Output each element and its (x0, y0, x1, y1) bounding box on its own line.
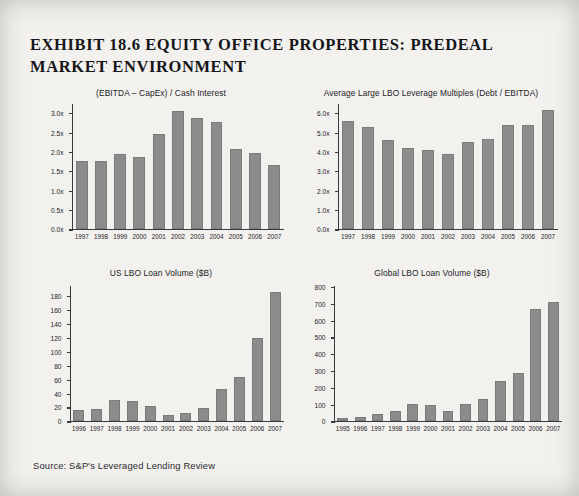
bar (163, 415, 174, 421)
y-axis-tick: 0 (331, 421, 335, 422)
y-axis-tick-label: 0 (58, 418, 62, 425)
bar (460, 404, 471, 420)
x-axis-label: 2002 (168, 233, 187, 240)
bar-slot (188, 104, 207, 229)
page-title: EXHIBIT 18.6 EQUITY OFFICE PROPERTIES: P… (30, 34, 540, 78)
x-axis-label: 1997 (72, 233, 91, 240)
y-axis-tick-label: 800 (314, 284, 325, 291)
bar-slot (422, 286, 440, 421)
x-axis-label: 1998 (91, 233, 110, 240)
x-axis-label: 2007 (544, 425, 562, 432)
x-axis-label: 2002 (438, 233, 458, 240)
x-axis-label: 2007 (266, 425, 284, 432)
x-axis-label: 2007 (265, 233, 284, 240)
bar-slot (177, 286, 195, 421)
x-axis-label: 2006 (527, 425, 545, 432)
bar-slot (398, 104, 418, 229)
y-axis-tick-label: 20 (54, 404, 61, 411)
bar (145, 406, 156, 420)
chart-us-lbo-loan-volume: US LBO Loan Volume ($B) 0204060801001201… (30, 268, 292, 440)
bar-slot (527, 286, 545, 421)
bar-slot (378, 104, 398, 229)
bar (407, 404, 418, 421)
x-axis-label: 2005 (509, 425, 527, 432)
bar-slot (159, 286, 177, 421)
x-axis-label: 2002 (457, 425, 475, 432)
x-axis-label: 1998 (387, 425, 405, 432)
y-axis-tick-label: 6.0x (317, 110, 329, 117)
y-axis-tick: 0.0x (69, 229, 73, 230)
plot-area: 0.0x0.5x1.0x1.5x2.0x2.5x3.0x 19971998199… (72, 104, 284, 230)
x-axis-label: 1997 (369, 425, 387, 432)
bar (542, 110, 554, 229)
y-axis-tick: 0.0x (335, 229, 339, 230)
bar (482, 139, 494, 229)
y-axis-tick-label: 5.0x (317, 129, 329, 136)
bar-slot (141, 286, 159, 421)
bar-slot (418, 104, 438, 229)
bar-slot (338, 104, 358, 229)
bar (268, 165, 280, 229)
x-axis-label: 2001 (159, 425, 177, 432)
x-axis-label: 2003 (188, 233, 207, 240)
bar-slot (518, 104, 538, 229)
bar (522, 125, 534, 229)
x-axis-label: 2004 (207, 233, 226, 240)
bar (478, 399, 489, 421)
x-axis-labels: 1996199719981999200020012002200320042005… (70, 425, 284, 432)
bar (337, 418, 348, 421)
bar-slot (91, 104, 110, 229)
bar (95, 161, 107, 228)
bar-slot (168, 104, 187, 229)
bar-series (70, 286, 284, 421)
x-axis-labels: 1995199619971998199920002001200220032004… (334, 425, 562, 432)
exhibit-page: EXHIBIT 18.6 EQUITY OFFICE PROPERTIES: P… (0, 0, 579, 496)
bar-slot (358, 104, 378, 229)
y-axis-tick-label: 60 (54, 376, 61, 383)
bar (216, 389, 227, 421)
x-axis-labels: 1997199819992000200120022003200420052006… (338, 233, 558, 240)
bar-slot (458, 104, 478, 229)
bar (252, 338, 263, 421)
bar (127, 401, 138, 421)
x-axis-label: 1998 (106, 425, 124, 432)
bar (442, 154, 454, 229)
y-axis-tick-label: 2.5x (51, 129, 63, 136)
x-axis-label: 1999 (123, 425, 141, 432)
x-axis-label: 2004 (478, 233, 498, 240)
y-axis-tick-label: 80 (54, 362, 61, 369)
bar (425, 405, 436, 421)
x-axis-label: 1996 (352, 425, 370, 432)
bar (133, 157, 145, 229)
x-axis-label: 1996 (70, 425, 88, 432)
y-axis-tick-label: 0.5x (51, 207, 63, 214)
source-note: Source: S&P's Leveraged Lending Review (33, 460, 215, 471)
x-axis-label: 2006 (248, 425, 266, 432)
bar (249, 153, 261, 229)
y-axis-tick-label: 0 (322, 418, 326, 425)
bar (114, 154, 126, 229)
x-axis-line (334, 421, 562, 422)
y-axis-tick-label: 40 (54, 390, 61, 397)
bar-slot (509, 286, 527, 421)
y-axis-tick-label: 1.0x (317, 207, 329, 214)
x-axis-line (338, 229, 558, 230)
chart-global-lbo-loan-volume: Global LBO Loan Volume ($B) 010020030040… (296, 268, 568, 440)
plot-area: 0.0x1.0x2.0x3.0x4.0x5.0x6.0x 19971998199… (338, 104, 558, 230)
bar-slot (130, 104, 149, 229)
x-axis-label: 2001 (149, 233, 168, 240)
plot-area: 0100200300400500600700800 19951996199719… (334, 286, 562, 422)
x-axis-label: 2003 (474, 425, 492, 432)
x-axis-label: 1999 (111, 233, 130, 240)
bar (382, 140, 394, 228)
bar (548, 302, 559, 421)
x-axis-label: 2003 (458, 233, 478, 240)
bar (91, 409, 102, 421)
bar-slot (544, 286, 562, 421)
y-axis-tick-label: 2.0x (317, 187, 329, 194)
x-axis-labels: 1997199819992000200120022003200420052006… (72, 233, 284, 240)
y-axis-tick-label: 600 (314, 317, 325, 324)
bar-slot (538, 104, 558, 229)
x-axis-label: 2006 (245, 233, 264, 240)
y-axis-tick-label: 180 (50, 292, 61, 299)
